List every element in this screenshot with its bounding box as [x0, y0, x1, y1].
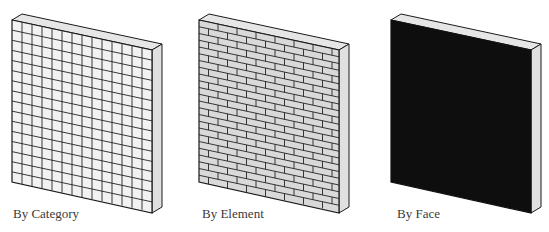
- panel-by-category: By Category: [0, 0, 183, 232]
- wall-solid-face-illustration: [366, 0, 549, 232]
- wall-brick-pattern-illustration: [183, 0, 366, 232]
- label-by-element: By Element: [202, 206, 264, 222]
- label-by-face: By Face: [397, 206, 440, 222]
- panel-by-element: By Element: [183, 0, 366, 232]
- wall-grid-pattern-illustration: [0, 0, 183, 232]
- panel-by-face: By Face: [366, 0, 549, 232]
- label-by-category: By Category: [13, 206, 79, 222]
